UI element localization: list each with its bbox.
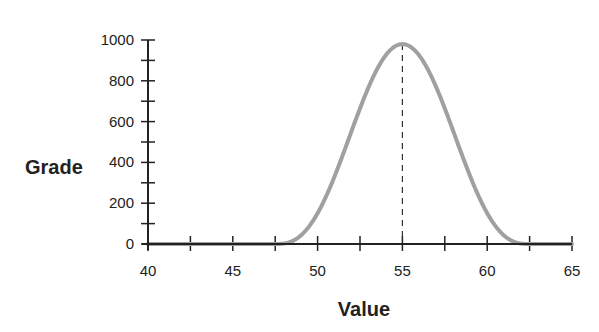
y-tick-label: 200 bbox=[109, 194, 134, 211]
x-tick-label: 40 bbox=[140, 262, 157, 279]
x-axis-title: Value bbox=[338, 298, 390, 320]
y-axis-title: Grade bbox=[25, 156, 83, 178]
y-tick-label: 0 bbox=[126, 235, 134, 252]
x-tick-label: 60 bbox=[479, 262, 496, 279]
y-tick-label: 600 bbox=[109, 113, 134, 130]
x-tick-label: 45 bbox=[224, 262, 241, 279]
y-tick-label: 800 bbox=[109, 72, 134, 89]
y-axis: 02004006008001000 bbox=[101, 31, 155, 252]
x-tick-label: 65 bbox=[564, 262, 581, 279]
x-tick-label: 50 bbox=[309, 262, 326, 279]
axis-lines bbox=[142, 40, 572, 250]
chart: 02004006008001000 404550556065 Grade Val… bbox=[0, 0, 599, 332]
y-tick-label: 1000 bbox=[101, 31, 134, 48]
bell-curve bbox=[148, 44, 572, 244]
x-tick-label: 55 bbox=[394, 262, 411, 279]
y-tick-label: 400 bbox=[109, 153, 134, 170]
